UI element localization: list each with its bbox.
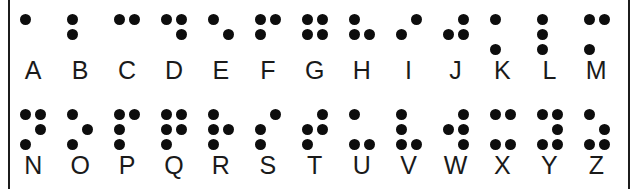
braille-dot-1	[349, 14, 360, 25]
braille-dot-3	[255, 139, 266, 150]
braille-cell-s: S	[245, 107, 292, 178]
braille-dot-3	[584, 139, 595, 150]
braille-cell-g: G	[292, 12, 339, 83]
braille-dot-empty	[35, 139, 46, 150]
braille-dot-5	[317, 124, 328, 135]
letter-label: Z	[589, 152, 605, 178]
braille-dot-empty	[443, 14, 454, 25]
braille-dot-empty	[223, 14, 234, 25]
braille-dot-empty	[223, 44, 234, 55]
braille-dot-empty	[129, 29, 140, 40]
braille-dot-3	[490, 44, 501, 55]
braille-dot-empty	[176, 139, 187, 150]
letter-label: D	[165, 57, 184, 83]
braille-dot-2	[208, 124, 219, 135]
braille-dot-1	[67, 109, 78, 120]
braille-cell-h: H	[338, 12, 385, 83]
letter-label: I	[405, 57, 412, 83]
braille-dot-grid	[582, 12, 612, 57]
letter-label: H	[353, 57, 372, 83]
braille-dot-1	[537, 109, 548, 120]
braille-cell-b: B	[57, 12, 104, 83]
braille-dot-2	[255, 29, 266, 40]
braille-dot-1	[584, 14, 595, 25]
letter-label: U	[353, 152, 372, 178]
braille-dot-5	[364, 29, 375, 40]
braille-dot-empty	[82, 44, 93, 55]
braille-dot-5	[176, 124, 187, 135]
braille-dot-empty	[537, 124, 548, 135]
braille-dot-empty	[364, 44, 375, 55]
braille-dot-6	[458, 139, 469, 150]
braille-dot-6	[505, 139, 516, 150]
braille-dot-grid	[300, 12, 330, 57]
braille-dot-1	[208, 109, 219, 120]
braille-cell-q: Q	[151, 107, 198, 178]
braille-cell-k: K	[479, 12, 526, 83]
braille-dot-grid	[159, 12, 189, 57]
letter-label: A	[25, 57, 42, 83]
braille-dot-empty	[396, 14, 407, 25]
braille-dot-empty	[411, 109, 422, 120]
braille-dot-4	[458, 14, 469, 25]
braille-dot-empty	[505, 44, 516, 55]
braille-dot-5	[458, 29, 469, 40]
braille-dot-empty	[255, 44, 266, 55]
braille-dot-2	[349, 29, 360, 40]
braille-dot-empty	[552, 44, 563, 55]
braille-dot-grid	[394, 107, 424, 152]
braille-cell-f: F	[245, 12, 292, 83]
braille-dot-1	[349, 109, 360, 120]
braille-dot-2	[396, 124, 407, 135]
braille-dot-1	[490, 14, 501, 25]
braille-dot-empty	[505, 14, 516, 25]
braille-cell-d: D	[151, 12, 198, 83]
braille-dot-4	[317, 14, 328, 25]
braille-dot-grid	[18, 107, 48, 152]
braille-dot-grid	[65, 12, 95, 57]
braille-cell-m: M	[573, 12, 620, 83]
braille-dot-1	[114, 109, 125, 120]
braille-dot-2	[443, 29, 454, 40]
braille-dot-empty	[270, 29, 281, 40]
braille-dot-4	[35, 109, 46, 120]
braille-dot-2	[443, 124, 454, 135]
letter-label: L	[542, 57, 556, 83]
braille-dot-1	[584, 109, 595, 120]
letter-label: O	[70, 152, 90, 178]
letter-label: F	[260, 57, 276, 83]
braille-alphabet-chart: ABCDEFGHIJKLM NOPQRSTUVWXYZ	[0, 0, 636, 189]
braille-dot-6	[411, 139, 422, 150]
braille-dot-grid	[488, 12, 518, 57]
braille-dot-5	[82, 124, 93, 135]
braille-dot-empty	[20, 124, 31, 135]
braille-dot-empty	[270, 124, 281, 135]
braille-dot-empty	[270, 44, 281, 55]
braille-dot-3	[20, 139, 31, 150]
braille-dot-empty	[35, 44, 46, 55]
braille-dot-grid	[582, 107, 612, 152]
braille-dot-5	[599, 124, 610, 135]
braille-dot-empty	[114, 29, 125, 40]
braille-dot-3	[349, 139, 360, 150]
braille-cell-a: A	[10, 12, 57, 83]
braille-dot-empty	[317, 44, 328, 55]
braille-dot-grid	[65, 107, 95, 152]
braille-dot-5	[223, 124, 234, 135]
braille-dot-grid	[300, 107, 330, 152]
braille-dot-empty	[411, 124, 422, 135]
braille-cell-p: P	[104, 107, 151, 178]
braille-dot-4	[129, 109, 140, 120]
braille-dot-grid	[347, 107, 377, 152]
braille-dot-empty	[505, 29, 516, 40]
braille-dot-2	[67, 29, 78, 40]
braille-dot-grid	[441, 107, 471, 152]
braille-dot-3	[67, 139, 78, 150]
braille-dot-4	[552, 109, 563, 120]
braille-dot-empty	[161, 29, 172, 40]
braille-dot-grid	[253, 12, 283, 57]
braille-dot-grid	[441, 12, 471, 57]
braille-cell-c: C	[104, 12, 151, 83]
braille-dot-grid	[206, 12, 236, 57]
braille-dot-5	[317, 29, 328, 40]
